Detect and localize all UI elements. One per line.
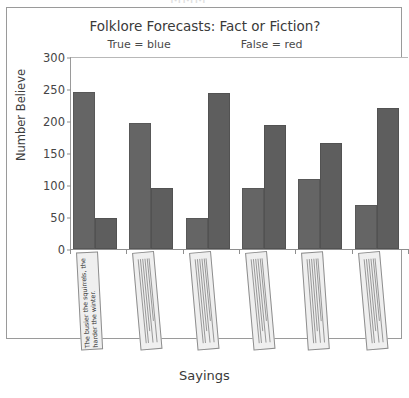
y-axis-tick-mark [67,186,71,187]
x-axis-tick-mark [70,249,71,254]
bar-false-group-5 [320,143,342,249]
x-axis-tick-mark [183,249,184,254]
bar-true-group-2 [129,123,151,249]
bar-false-group-1 [95,218,117,249]
bar-false-group-6 [377,108,399,249]
bar-true-group-5 [298,179,320,249]
saying-label-text: The busier the squirrels, the harder the… [79,254,100,349]
x-axis-tick-mark [239,249,240,254]
chart-title: Folklore Forecasts: Fact or Fiction? [7,18,403,34]
y-axis-tick-mark [67,122,71,123]
bar-true-group-4 [242,188,264,249]
bar-false-group-3 [208,93,230,249]
legend-item-true: True = blue [107,38,170,51]
y-axis-tick-mark [67,90,71,91]
bars-layer [71,58,408,249]
top-edge-artifact: MMM [170,0,260,5]
y-axis-tick-mark [67,154,71,155]
bar-false-group-2 [151,188,173,249]
y-axis-tick-mark [67,58,71,59]
x-axis-tick-mark [295,249,296,254]
x-axis-tick-mark [126,249,127,254]
bar-true-group-3 [186,218,208,249]
bar-true-group-1 [73,92,95,249]
legend: True = blue False = red [7,38,403,51]
x-axis-title: Sayings [0,368,409,383]
bar-true-group-6 [355,205,377,249]
x-axis-tick-mark [352,249,353,254]
plot-area: 050100150200250300 [70,57,408,249]
legend-item-false: False = red [241,38,303,51]
y-axis-tick-mark [67,218,71,219]
chart-screenshot: MMM Folklore Forecasts: Fact or Fiction?… [0,0,409,398]
y-axis-title: Number Believe [14,55,28,175]
bar-false-group-4 [264,125,286,249]
